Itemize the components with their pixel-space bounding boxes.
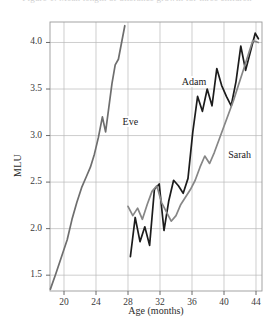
y-tick-label: 3.5	[16, 83, 42, 93]
x-axis-title: Age (months)	[50, 305, 262, 316]
y-tick-label: 4.0	[16, 36, 42, 46]
y-axis-title: MLU	[12, 136, 23, 196]
y-tick-label: 2.0	[16, 223, 42, 233]
series-label-sarah: Sarah	[227, 149, 252, 160]
series-label-adam: Adam	[181, 76, 207, 87]
y-tick-label: 1.5	[16, 269, 42, 279]
series-label-eve: Eve	[122, 116, 140, 127]
chart-figure: Figure 1. Mean length of utterance growt…	[0, 0, 274, 326]
axis-ticks	[46, 42, 256, 295]
